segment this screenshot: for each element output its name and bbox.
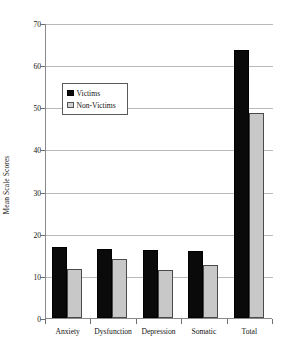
x-tick-mark <box>45 319 46 324</box>
plot-area <box>45 24 272 319</box>
legend-swatch-non-victims-icon <box>67 102 74 109</box>
x-tick-mark <box>90 319 91 324</box>
bar-anxiety-victims <box>52 247 67 318</box>
legend-label-non-victims: Non-Victims <box>77 101 116 110</box>
bar-dysfunction-non-victims <box>112 259 127 318</box>
y-axis-title: Mean Scale Scores <box>2 120 11 250</box>
x-tick-mark <box>227 319 228 324</box>
x-tick-mark <box>181 319 182 324</box>
x-tick-label-somatic: Somatic <box>191 327 216 336</box>
y-tick-label: 50 <box>15 104 41 113</box>
y-tick-label: 20 <box>15 230 41 239</box>
x-tick-mark <box>136 319 137 324</box>
legend-label-victims: Victims <box>77 89 101 98</box>
x-tick-mark <box>272 319 273 324</box>
legend-swatch-victims-icon <box>67 90 74 97</box>
bar-somatic-victims <box>188 251 203 318</box>
legend-item-victims: Victims <box>67 87 123 99</box>
legend-item-non-victims: Non-Victims <box>67 99 123 111</box>
y-tick-label: 10 <box>15 272 41 281</box>
bar-total-non-victims <box>249 113 264 318</box>
bar-somatic-non-victims <box>203 265 218 318</box>
bar-chart-figure: Mean Scale Scores 010203040506070 Anxiet… <box>0 0 282 356</box>
bar-anxiety-non-victims <box>67 269 82 318</box>
x-tick-label-depression: Depression <box>141 327 175 336</box>
bar-dysfunction-victims <box>97 249 112 318</box>
y-tick-label: 70 <box>15 20 41 29</box>
chart-legend: Victims Non-Victims <box>62 83 128 115</box>
bar-depression-victims <box>143 250 158 318</box>
y-tick-label: 60 <box>15 62 41 71</box>
x-tick-label-anxiety: Anxiety <box>55 327 79 336</box>
y-tick-label: 0 <box>15 315 41 324</box>
x-tick-label-dysfunction: Dysfunction <box>94 327 132 336</box>
bar-total-victims <box>234 50 249 318</box>
gridline <box>46 24 273 25</box>
y-tick-label: 40 <box>15 146 41 155</box>
x-tick-label-total: Total <box>242 327 258 336</box>
y-tick-label: 30 <box>15 188 41 197</box>
bar-depression-non-victims <box>158 270 173 318</box>
